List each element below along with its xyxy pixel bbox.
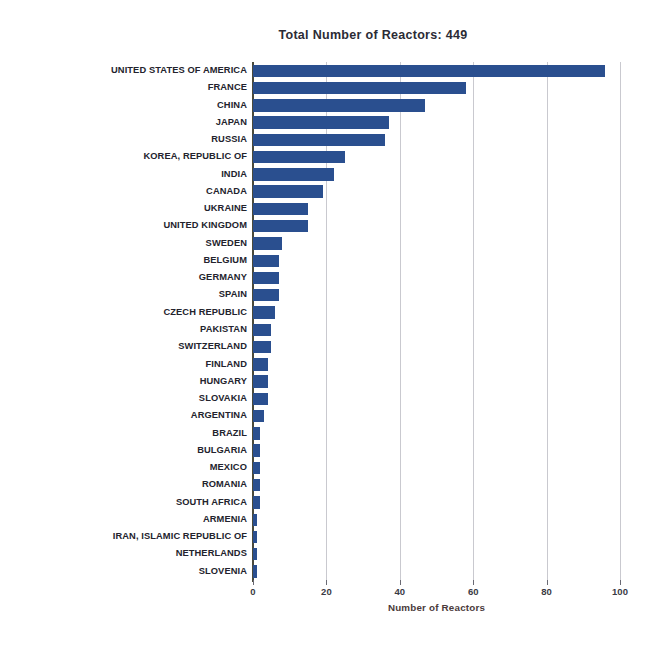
category-label: SLOVAKIA	[3, 390, 247, 408]
bar-row: CHINA	[253, 97, 620, 115]
bar	[253, 65, 605, 77]
category-label: ROMANIA	[3, 476, 247, 494]
chart-title: Total Number of Reactors: 449	[38, 28, 670, 42]
x-tick-label: 80	[541, 586, 552, 597]
bar	[253, 185, 323, 197]
category-label: ARMENIA	[3, 511, 247, 529]
bar	[253, 479, 260, 491]
bar-row: SWITZERLAND	[253, 338, 620, 356]
bar-row: SLOVAKIA	[253, 390, 620, 408]
category-label: FRANCE	[3, 79, 247, 97]
bar	[253, 82, 466, 94]
x-tick-mark	[253, 580, 254, 585]
bar-row: FRANCE	[253, 79, 620, 97]
category-label: INDIA	[3, 166, 247, 184]
category-label: SWITZERLAND	[3, 338, 247, 356]
bar-row: FINLAND	[253, 356, 620, 374]
category-label: UKRAINE	[3, 200, 247, 218]
bar-row: GERMANY	[253, 269, 620, 287]
bar-row: NETHERLANDS	[253, 545, 620, 563]
bar	[253, 289, 279, 301]
bar	[253, 462, 260, 474]
x-tick-label: 60	[468, 586, 479, 597]
bar	[253, 393, 268, 405]
x-tick-mark	[620, 580, 621, 585]
plot-area: UNITED STATES OF AMERICAFRANCECHINAJAPAN…	[253, 62, 620, 580]
bar-row: INDIA	[253, 166, 620, 184]
bar-row: BULGARIA	[253, 442, 620, 460]
category-label: CHINA	[3, 97, 247, 115]
x-tick-label: 0	[250, 586, 255, 597]
bar	[253, 306, 275, 318]
bar	[253, 324, 271, 336]
category-label: ARGENTINA	[3, 407, 247, 425]
category-label: MEXICO	[3, 459, 247, 477]
bar	[253, 427, 260, 439]
bar-row: CZECH REPUBLIC	[253, 304, 620, 322]
bar	[253, 168, 334, 180]
category-label: CZECH REPUBLIC	[3, 304, 247, 322]
x-tick-label: 40	[395, 586, 406, 597]
category-label: UNITED KINGDOM	[3, 217, 247, 235]
x-tick-label: 100	[612, 586, 628, 597]
bar-row: IRAN, ISLAMIC REPUBLIC OF	[253, 528, 620, 546]
bar	[253, 116, 389, 128]
bar-row: ARMENIA	[253, 511, 620, 529]
bar	[253, 220, 308, 232]
category-label: SOUTH AFRICA	[3, 494, 247, 512]
bar	[253, 358, 268, 370]
bar	[253, 565, 257, 577]
bar-row: BRAZIL	[253, 425, 620, 443]
bar-row: UNITED KINGDOM	[253, 217, 620, 235]
bar-row: MEXICO	[253, 459, 620, 477]
bar	[253, 255, 279, 267]
category-label: NETHERLANDS	[3, 545, 247, 563]
category-label: BULGARIA	[3, 442, 247, 460]
category-label: HUNGARY	[3, 373, 247, 391]
bar	[253, 548, 257, 560]
bar-row: RUSSIA	[253, 131, 620, 149]
bar-row: SWEDEN	[253, 235, 620, 253]
bar-row: SPAIN	[253, 286, 620, 304]
bar	[253, 99, 425, 111]
bar	[253, 531, 257, 543]
x-tick-label: 20	[321, 586, 332, 597]
x-axis-title: Number of Reactors	[253, 602, 620, 613]
bar-chart: Total Number of Reactors: 449 UNITED STA…	[0, 0, 670, 655]
category-label: JAPAN	[3, 114, 247, 132]
bar-row: ROMANIA	[253, 476, 620, 494]
category-label: IRAN, ISLAMIC REPUBLIC OF	[3, 528, 247, 546]
category-label: FINLAND	[3, 356, 247, 374]
x-tick-mark	[547, 580, 548, 585]
bar	[253, 514, 257, 526]
bar-row: UNITED STATES OF AMERICA	[253, 62, 620, 80]
bar-row: HUNGARY	[253, 373, 620, 391]
category-label: SPAIN	[3, 286, 247, 304]
category-label: PAKISTAN	[3, 321, 247, 339]
x-tick-mark	[473, 580, 474, 585]
bar-row: KOREA, REPUBLIC OF	[253, 148, 620, 166]
bar	[253, 151, 345, 163]
category-label: KOREA, REPUBLIC OF	[3, 148, 247, 166]
x-tick-mark	[400, 580, 401, 585]
category-label: BRAZIL	[3, 425, 247, 443]
category-label: SLOVENIA	[3, 563, 247, 581]
x-tick-mark	[326, 580, 327, 585]
bar-row: JAPAN	[253, 114, 620, 132]
category-label: RUSSIA	[3, 131, 247, 149]
bar	[253, 375, 268, 387]
bar-row: SOUTH AFRICA	[253, 494, 620, 512]
bar-row: UKRAINE	[253, 200, 620, 218]
bar-row: PAKISTAN	[253, 321, 620, 339]
bar-row: SLOVENIA	[253, 563, 620, 581]
bar-row: ARGENTINA	[253, 407, 620, 425]
bar	[253, 341, 271, 353]
bar-row: BELGIUM	[253, 252, 620, 270]
bar	[253, 444, 260, 456]
bar	[253, 134, 385, 146]
category-label: UNITED STATES OF AMERICA	[3, 62, 247, 80]
bar	[253, 410, 264, 422]
category-label: SWEDEN	[3, 235, 247, 253]
bar	[253, 496, 260, 508]
bar	[253, 272, 279, 284]
